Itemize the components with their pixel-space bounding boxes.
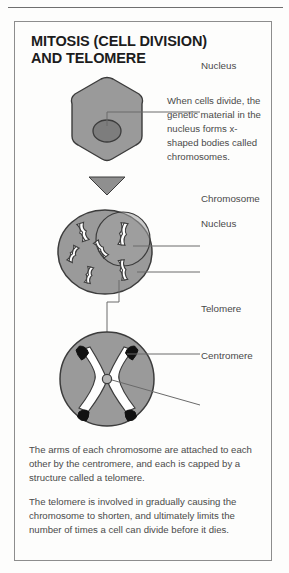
info-panel: MITOSIS (CELL DIVISION) AND TELOMERE	[14, 21, 272, 561]
label-nucleus-top: Nucleus	[201, 60, 236, 71]
inline-note-text: When cells divide, the genetic material …	[167, 94, 267, 164]
top-rule-divider	[8, 7, 283, 8]
centromere-shape	[102, 374, 111, 383]
label-telomere: Telomere	[201, 303, 241, 314]
dividing-cell-icon	[58, 210, 152, 294]
chromosome-closeup-icon	[60, 332, 154, 426]
label-nucleus-mid: Nucleus	[201, 218, 236, 229]
page-title-line-1: MITOSIS (CELL DIVISION)	[31, 33, 256, 50]
down-arrow-icon	[89, 177, 125, 195]
paragraph-centromere-telomere: The arms of each chromosome are attached…	[29, 443, 261, 485]
page-canvas: MITOSIS (CELL DIVISION) AND TELOMERE	[0, 0, 289, 573]
label-chromosome: Chromosome	[201, 193, 260, 204]
label-centromere: Centromere	[201, 350, 253, 361]
paragraph-telomere-shortening: The telomere is involved in gradually ca…	[29, 495, 261, 537]
